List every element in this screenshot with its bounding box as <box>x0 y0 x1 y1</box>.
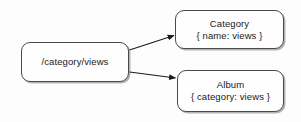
node-album-subtitle: { category: views } <box>191 91 270 103</box>
node-source-title: /category/views <box>42 56 109 68</box>
edge-source-to-category <box>130 36 175 51</box>
node-category[interactable]: Category { name: views } <box>175 10 284 49</box>
node-category-subtitle: { name: views } <box>197 30 263 42</box>
node-album-title: Album <box>217 79 244 91</box>
node-album[interactable]: Album { category: views } <box>177 70 284 112</box>
node-category-title: Category <box>210 18 249 30</box>
node-source-path[interactable]: /category/views <box>21 42 129 82</box>
edge-source-to-album <box>130 72 176 78</box>
diagram-canvas: /category/views Category { name: views }… <box>0 0 301 122</box>
